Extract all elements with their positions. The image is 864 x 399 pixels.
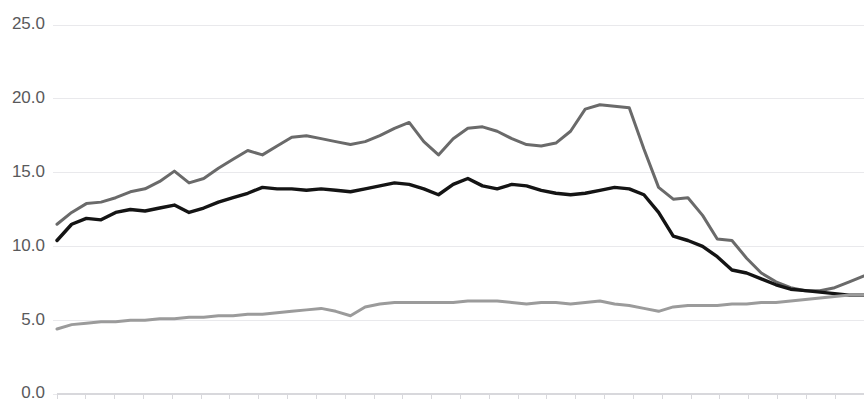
chart-background — [0, 0, 864, 399]
y-tick-label: 5.0 — [21, 310, 45, 329]
line-chart: 0.05.010.015.020.025.0 — [0, 0, 864, 399]
y-tick-label: 15.0 — [12, 162, 45, 181]
y-tick-label: 20.0 — [12, 88, 45, 107]
y-tick-label: 0.0 — [21, 383, 45, 399]
chart-canvas: 0.05.010.015.020.025.0 — [0, 0, 864, 399]
y-tick-label: 10.0 — [12, 236, 45, 255]
y-tick-label: 25.0 — [12, 14, 45, 33]
